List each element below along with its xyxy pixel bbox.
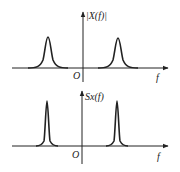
top-x-label: f [156,72,160,83]
top-plot: |X(f)| O f [12,10,168,83]
bottom-y-label: Sx(f) [85,91,105,103]
bottom-left-peak [36,101,58,146]
top-y-label: |X(f)| [86,10,107,22]
top-left-peak [28,37,68,68]
top-right-peak [98,38,138,68]
bottom-right-peak [106,101,128,146]
top-origin-label: O [73,70,80,81]
bottom-x-label: f [157,151,161,162]
bottom-origin-label: O [72,149,79,160]
bottom-plot: Sx(f) O f [12,91,168,164]
spectrum-diagram: |X(f)| O f Sx(f) O f [0,0,180,172]
